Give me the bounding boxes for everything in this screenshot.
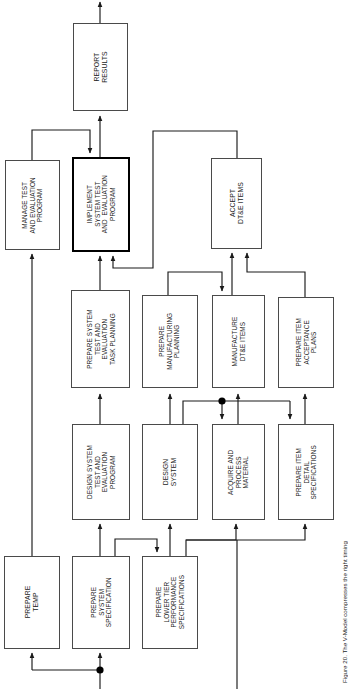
node-label: REPORT RESULTS xyxy=(92,51,108,83)
junction-dot-temp-split xyxy=(96,666,103,673)
node-manage-te-program[interactable]: MANAGE TEST AND EVALUATION PROGRAM xyxy=(5,160,60,250)
node-label: PREPARE TEMP xyxy=(24,586,40,619)
node-prepare-lower-tier-specs[interactable]: PREPARE LOWER TIER PERFORMANCE SPECIFICA… xyxy=(142,556,198,649)
node-implement-te-program[interactable]: IMPLEMENT SYSTEM TEST AND EVALUATION PRO… xyxy=(72,157,130,252)
node-label: PREPARE ITEM DETAIL SPECIFICATIONS xyxy=(295,445,318,499)
node-label: PREPARE SYSTEM SPECIFICATION xyxy=(90,578,113,628)
node-manufacture-dte-items[interactable]: MANUFACTURE DT&E ITEMS xyxy=(212,295,265,388)
node-prepare-mfg-planning[interactable]: PREPARE MANUFACTURING PLANNING xyxy=(142,295,198,388)
figure-caption: Figure 20. The V-Model compresses the ri… xyxy=(330,435,344,685)
node-accept-dte-items[interactable]: ACCEPT DT&E ITEMS xyxy=(211,158,262,249)
node-label: PREPARE SYSTEM TEST AND EVALUATION TASK … xyxy=(85,309,115,369)
figure-caption-text: Figure 20. The V-Model compresses the ri… xyxy=(341,541,348,683)
node-label: DESIGN SYSTEM xyxy=(162,458,178,487)
node-prepare-item-acceptance-plans[interactable]: PREPARE ITEM ACCEPTANCE PLANS xyxy=(278,297,334,388)
node-design-system[interactable]: DESIGN SYSTEM xyxy=(142,424,198,520)
node-prepare-item-detail-specs[interactable]: PREPARE ITEM DETAIL SPECIFICATIONS xyxy=(278,424,334,520)
node-label: PREPARE MANUFACTURING PLANNING xyxy=(159,313,182,370)
node-label: MANUFACTURE DT&E ITEMS xyxy=(231,317,246,367)
node-prepare-temp[interactable]: PREPARE TEMP xyxy=(4,556,60,649)
node-acquire-process-material[interactable]: ACQUIRE AND PROCESS MATERIAL xyxy=(212,424,265,520)
node-prepare-te-task-plan[interactable]: PREPARE SYSTEM TEST AND EVALUATION TASK … xyxy=(71,290,130,388)
node-label: ACQUIRE AND PROCESS MATERIAL xyxy=(227,449,250,494)
node-prepare-system-specification[interactable]: PREPARE SYSTEM SPECIFICATION xyxy=(72,556,130,649)
node-design-te-program[interactable]: DESIGN SYSTEM TEST AND EVALUATION PROGRA… xyxy=(72,424,130,520)
node-label: MANAGE TEST AND EVALUATION PROGRAM xyxy=(21,177,44,233)
node-label: DESIGN SYSTEM TEST AND EVALUATION PROGRA… xyxy=(86,445,116,499)
node-report-results[interactable]: REPORT RESULTS xyxy=(73,23,128,111)
node-label: PREPARE ITEM ACCEPTANCE PLANS xyxy=(295,318,318,366)
junction-dot-material-split xyxy=(218,397,225,404)
node-label: ACCEPT DT&E ITEMS xyxy=(228,183,244,225)
node-label: PREPARE LOWER TIER PERFORMANCE SPECIFICA… xyxy=(155,575,185,629)
node-label: IMPLEMENT SYSTEM TEST AND EVALUATION PRO… xyxy=(86,175,116,233)
